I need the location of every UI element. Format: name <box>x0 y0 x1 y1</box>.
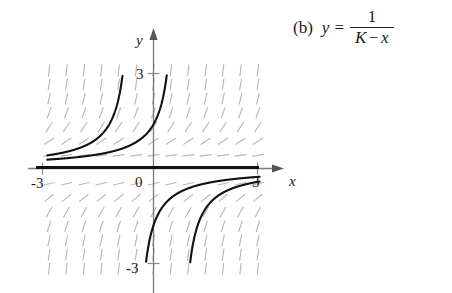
slope-dash <box>166 138 175 144</box>
slope-dash <box>223 263 224 274</box>
slope-dash <box>118 79 120 90</box>
slope-dash <box>83 79 85 90</box>
slope-dash <box>135 235 137 246</box>
slope-dash <box>255 207 260 217</box>
slope-dash <box>131 155 142 157</box>
slope-dash <box>83 235 85 246</box>
slope-dash <box>222 235 224 246</box>
denominator-operator: − <box>367 28 381 47</box>
slope-dash <box>133 207 138 217</box>
slope-dash <box>46 207 51 217</box>
slope-dash <box>200 155 211 157</box>
slope-dash <box>236 194 245 201</box>
slope-dash <box>183 183 194 185</box>
slope-dash <box>187 79 189 90</box>
slope-dash <box>170 65 171 76</box>
y-axis-arrowhead <box>149 28 157 40</box>
slope-dash <box>256 108 260 118</box>
slope-dash <box>257 249 259 260</box>
slope-dash <box>186 108 190 118</box>
slope-dash <box>170 93 172 104</box>
slope-dash <box>61 155 72 157</box>
slope-dash <box>83 263 84 274</box>
slope-dash <box>47 108 51 118</box>
fraction-denominator: K−x <box>350 28 394 47</box>
slope-dash <box>100 93 102 104</box>
slope-dash <box>203 122 209 131</box>
slope-dash <box>100 79 102 90</box>
slope-dash <box>169 221 172 231</box>
slope-dash <box>257 79 259 90</box>
slope-dash <box>100 221 103 231</box>
slope-dash <box>63 122 69 131</box>
slope-dash <box>205 249 207 260</box>
slope-dash <box>220 207 225 217</box>
slope-dash <box>80 194 89 201</box>
slope-dash <box>66 249 68 260</box>
slope-dash <box>97 194 106 201</box>
slope-dash <box>222 65 223 76</box>
y-tick-label-positive-3: 3 <box>136 66 144 82</box>
slope-dash <box>83 93 85 104</box>
slope-dash <box>48 93 50 104</box>
slope-dash <box>100 235 102 246</box>
slope-dash <box>188 65 189 76</box>
slope-dash <box>117 108 121 118</box>
slope-dash <box>82 108 86 118</box>
slope-dash <box>48 235 50 246</box>
slope-dash <box>205 65 206 76</box>
denominator-constant: K <box>355 28 367 47</box>
slope-dash <box>257 65 258 76</box>
slope-dash <box>82 221 85 231</box>
slope-dash <box>239 221 242 231</box>
slope-dash <box>219 138 228 144</box>
slope-dash <box>221 221 224 231</box>
slope-dash <box>113 183 124 185</box>
slope-dash <box>183 155 194 157</box>
slope-dash <box>48 249 50 260</box>
slope-dash <box>101 65 102 76</box>
slope-dash <box>222 249 224 260</box>
slope-dash <box>62 138 71 144</box>
slope-dash <box>170 249 172 260</box>
slope-dash <box>205 79 207 90</box>
slope-dash <box>81 207 86 217</box>
slope-dash <box>187 235 189 246</box>
slope-dash <box>240 249 242 260</box>
slope-dash <box>170 79 172 90</box>
slope-dash <box>99 108 103 118</box>
slope-dash <box>254 194 263 201</box>
slope-dash <box>81 122 87 131</box>
slope-dash <box>170 263 171 274</box>
slope-dash <box>45 138 54 144</box>
slope-dash <box>96 183 107 185</box>
slope-dash <box>79 138 88 144</box>
slope-dash <box>133 122 139 131</box>
slope-dash <box>188 249 190 260</box>
slope-dash <box>185 122 191 131</box>
slope-dash <box>257 93 259 104</box>
slope-dash <box>201 194 210 201</box>
slope-dash <box>186 207 191 217</box>
slope-dash <box>205 263 206 274</box>
slope-dash <box>83 65 84 76</box>
slope-dash <box>252 155 263 157</box>
fraction-numerator: 1 <box>362 8 383 27</box>
slope-dash <box>114 138 123 144</box>
slope-dash <box>79 183 90 185</box>
slope-dash <box>204 93 206 104</box>
slope-dash <box>66 79 68 90</box>
slope-dash <box>240 263 241 274</box>
slope-dash <box>61 183 72 185</box>
slope-dash <box>204 108 208 118</box>
slope-dash <box>62 194 71 201</box>
slope-dash <box>168 207 173 217</box>
slope-dash <box>118 235 120 246</box>
slope-dash <box>168 122 174 131</box>
slope-dash <box>184 194 193 201</box>
slope-dash <box>240 79 242 90</box>
slope-dash <box>239 108 243 118</box>
solution-curve <box>47 76 122 156</box>
slope-dash <box>44 183 55 185</box>
slope-dash <box>101 263 102 274</box>
